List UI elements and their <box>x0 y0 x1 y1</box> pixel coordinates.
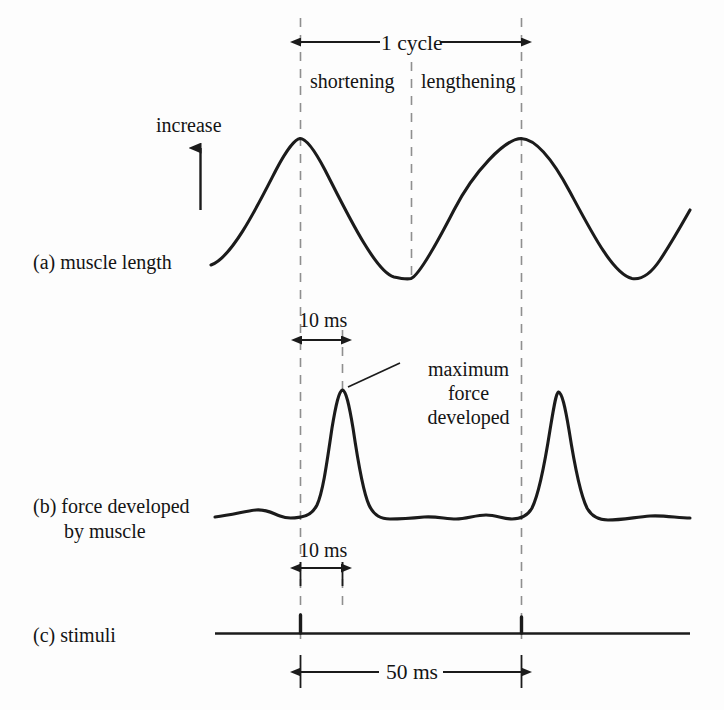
increase-label: increase <box>156 113 222 137</box>
shortening-label: shortening <box>310 69 394 93</box>
panel-b-label-line1: (b) force developed <box>33 494 190 518</box>
panel-b-label-line2: by muscle <box>64 519 146 543</box>
max-force-label-line3: developed <box>401 405 536 429</box>
force-ten-ms-label: 10 ms <box>299 308 347 332</box>
max-force-label-line1: maximum <box>401 357 536 381</box>
max-force-leader-line <box>348 363 400 387</box>
stimuli-ten-ms-arrow <box>301 562 343 586</box>
muscle-length-curve <box>211 139 690 279</box>
panel-c-label: (c) stimuli <box>33 623 116 647</box>
cycle-label: 1 cycle <box>381 30 441 56</box>
panel-a-label: (a) muscle length <box>33 250 172 274</box>
max-force-label-line2: force <box>401 381 536 405</box>
stimuli-ten-ms-label: 10 ms <box>299 538 347 562</box>
muscle-mechanics-figure: 1 cycle shortening lengthening increase … <box>0 0 724 710</box>
figure-canvas <box>0 0 724 710</box>
fifty-ms-label: 50 ms <box>380 659 444 685</box>
stimuli-trace <box>215 615 690 634</box>
lengthening-label: lengthening <box>421 69 515 93</box>
